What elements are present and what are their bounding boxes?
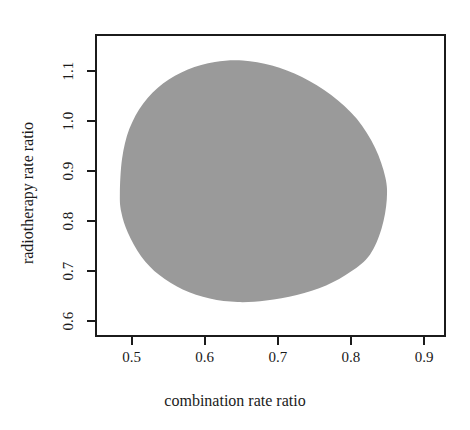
x-tick-label: 0.8 — [342, 350, 361, 365]
plot-panel — [95, 34, 446, 337]
y-tick-mark — [87, 170, 95, 172]
x-tick-label: 0.6 — [195, 350, 214, 365]
confidence-region-shape — [120, 60, 387, 302]
y-tick-label: 1.0 — [61, 104, 76, 138]
y-tick-mark — [87, 70, 95, 72]
x-tick-mark — [277, 337, 279, 345]
y-tick-mark — [87, 270, 95, 272]
x-tick-mark — [423, 337, 425, 345]
x-tick-label: 0.7 — [268, 350, 287, 365]
chart-figure: 0.5 0.6 0.7 0.8 0.9 0.6 0.7 0.8 0.9 1.0 … — [0, 0, 470, 430]
y-tick-label: 0.8 — [61, 204, 76, 238]
y-tick-label: 0.9 — [61, 154, 76, 188]
x-tick-label: 0.9 — [415, 350, 434, 365]
x-tick-mark — [350, 337, 352, 345]
y-tick-mark — [87, 320, 95, 322]
x-tick-mark — [204, 337, 206, 345]
y-tick-mark — [87, 120, 95, 122]
confidence-region-svg — [97, 36, 446, 337]
x-axis-title: combination rate ratio — [0, 393, 470, 409]
y-tick-mark — [87, 220, 95, 222]
y-tick-label: 1.1 — [61, 54, 76, 88]
y-axis-title: radiotherapy rate ratio — [20, 83, 36, 303]
x-tick-mark — [131, 337, 133, 345]
x-tick-label: 0.5 — [122, 350, 141, 365]
y-tick-label: 0.7 — [61, 254, 76, 288]
y-tick-label: 0.6 — [61, 304, 76, 338]
